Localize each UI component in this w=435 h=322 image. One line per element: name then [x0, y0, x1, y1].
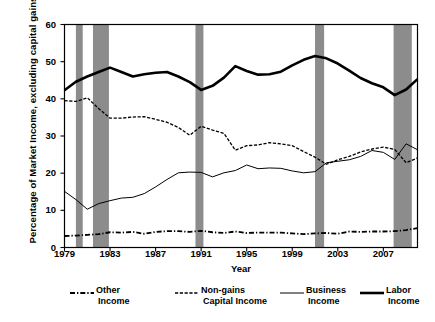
- x-tick-label: 1995: [227, 249, 267, 259]
- legend-label: OtherIncome: [96, 285, 130, 307]
- x-tick-label: 1991: [181, 249, 221, 259]
- series-line: [65, 228, 418, 236]
- x-tick-label: 2007: [363, 249, 403, 259]
- axes-box: [65, 25, 418, 248]
- data-series: [65, 56, 418, 236]
- thin-solid-line: [280, 289, 304, 297]
- x-tick-label: 1987: [136, 249, 176, 259]
- recession-band: [76, 25, 83, 248]
- y-tick-label: 30: [30, 131, 56, 141]
- dashed-line: [175, 289, 199, 297]
- legend-label: BusinessIncome: [306, 285, 346, 307]
- legend-label: Non-gainsCapital Income: [201, 285, 267, 307]
- legend-label-line2: Income: [386, 296, 420, 307]
- legend-label-line2: Income: [96, 296, 130, 307]
- recession-band: [195, 25, 203, 248]
- legend-label-line1: Business: [306, 285, 346, 295]
- series-line: [65, 144, 418, 209]
- legend-label-line2: Capital Income: [201, 296, 267, 307]
- x-tick-label: 1983: [90, 249, 130, 259]
- y-tick-label: 50: [30, 57, 56, 67]
- recession-band: [93, 25, 109, 248]
- recession-bands: [76, 25, 412, 248]
- legend-label: LaborIncome: [386, 285, 420, 307]
- y-tick-label: 20: [30, 168, 56, 178]
- axes-frame: [65, 25, 418, 248]
- x-axis-label: Year: [64, 263, 418, 274]
- legend-label-line1: Labor: [386, 285, 411, 295]
- legend-label-line1: Non-gains: [201, 285, 245, 295]
- tick-marks: [61, 25, 384, 252]
- y-tick-label: 40: [30, 94, 56, 104]
- dash-dot-line: [70, 289, 94, 297]
- y-tick-label: 10: [30, 205, 56, 215]
- thick-solid-line: [360, 289, 384, 297]
- y-tick-label: 60: [30, 20, 56, 30]
- legend-label-line1: Other: [96, 285, 120, 295]
- x-tick-label: 1979: [45, 249, 85, 259]
- legend-label-line2: Income: [306, 296, 346, 307]
- series-line: [65, 56, 418, 95]
- recession-band: [394, 25, 412, 248]
- chart-figure: Percentage of Market Income, excluding c…: [0, 0, 435, 322]
- chart-legend: OtherIncomeNon-gainsCapital IncomeBusine…: [60, 285, 420, 317]
- x-tick-label: 1999: [272, 249, 312, 259]
- x-tick-label: 2003: [318, 249, 358, 259]
